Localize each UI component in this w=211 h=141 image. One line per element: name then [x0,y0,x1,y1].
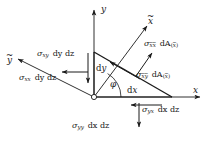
tilde-accent: ~ [164,71,168,76]
tilde-accent-yt: ~ [6,51,13,60]
sigma-xtxt-term: dA [160,39,171,48]
x-tilde-axis-label: ~x [148,17,153,26]
sigma-xx-term: dy dz [35,73,57,82]
sigma-xx-subscript: xx [24,76,30,82]
sigma-yx-subscript: yx [147,108,153,114]
angle-phi-symbol: φ [110,79,116,89]
origin-marker [91,94,96,99]
x-tilde-axis-line [94,26,147,97]
tilde-accent: ~ [152,40,156,45]
sigma-yy-subscript: yy [77,124,83,130]
y-tilde-axis-label: ~y [7,56,12,65]
tilde-accent-xt: ~ [147,12,154,21]
angle-phi-label: φ [110,80,116,89]
y-axis-label: y [101,5,106,14]
dx-edge-label: dx [127,86,137,95]
tilde-accent: ~ [172,40,176,45]
sigma-xtyt-term: dA [152,70,163,79]
sigma-xy-label: σxy dy dz [37,50,74,59]
sigma-xy-term: dy dz [53,49,75,58]
sigma-yx-label: σyx dx dz [142,106,179,115]
sigma-xtxt-label: σ~x~x dA(~x) [144,40,178,49]
sigma-xy-subscript: xy [42,52,48,58]
sigma-yy-label: σyy dx dz [72,122,109,131]
sigma-yy-term: dx dz [88,121,110,130]
sigma-xtyt-label: σ~x~y dA(~x) [136,71,170,80]
sigma-xx-label: σxx dy dz [19,74,56,83]
sigma-yx-term: dx dz [158,105,180,114]
stress-element-diagram: y x ~x ~y dy dx φ σxy dy dz σxx dy dz σy… [0,0,211,141]
x-axis-label-text: x [193,85,198,95]
x-axis-label: x [193,86,198,95]
y-axis-label-text: y [101,4,106,14]
tilde-accent: ~ [144,71,148,76]
dy-edge-label: dy [96,64,106,73]
